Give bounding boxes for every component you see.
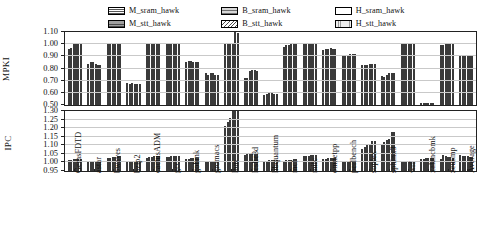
legend-swatch-icon xyxy=(108,20,125,28)
bar xyxy=(315,44,317,105)
legend-label: H_stt_hawk xyxy=(356,19,397,28)
bar xyxy=(119,44,121,105)
bar xyxy=(334,49,336,105)
x-axis-tick-label: xalancbmk xyxy=(428,136,437,173)
y-axis-tick-label: 0.90 xyxy=(18,51,58,60)
gridline xyxy=(65,68,476,69)
x-axis-tick: mcf xyxy=(280,172,300,228)
x-axis-tick: gcc xyxy=(162,172,182,228)
bar xyxy=(178,44,180,105)
bar xyxy=(276,94,278,105)
bar xyxy=(393,73,395,105)
x-axis-tick: milc xyxy=(300,172,320,228)
x-axis-tick-label: bzip2 xyxy=(133,154,142,173)
x-axis-tick: bwaves xyxy=(103,172,123,228)
x-axis-tick: perlbench xyxy=(339,172,359,228)
x-axis-tick: xalancbmk xyxy=(418,172,438,228)
x-axis-tick-label: mcf xyxy=(290,160,299,173)
x-axis-tick: libquantum xyxy=(261,172,281,228)
bar xyxy=(158,44,160,105)
bar xyxy=(295,44,297,105)
y-axis-tick-label: 1.00 xyxy=(18,39,58,48)
legend-swatch-icon xyxy=(108,7,125,15)
legend-swatch-icon xyxy=(335,20,352,28)
legend-label: M_sram_hawk xyxy=(129,6,179,15)
x-axis-tick: gromacs xyxy=(202,172,222,228)
chart-figure: M_sram_hawk B_sram_hawk H_sram_hawk M_st… xyxy=(0,0,481,228)
mpki-plot-panel xyxy=(64,31,477,106)
x-axis-tick: omnetpp xyxy=(320,172,340,228)
x-axis-tick: soplex xyxy=(359,172,379,228)
x-axis-tick-label: lbm xyxy=(231,160,240,173)
y-axis-title-mpki: MPKI xyxy=(1,57,11,81)
bar xyxy=(374,64,376,105)
y-axis-tick-label: 0.70 xyxy=(18,75,58,84)
x-axis-tick-label: omnetpp xyxy=(330,144,339,173)
bar xyxy=(139,84,141,105)
bar xyxy=(452,44,454,105)
bar xyxy=(197,62,199,105)
bar xyxy=(413,44,415,105)
legend-item-h-stt-hawk: H_stt_hawk xyxy=(335,19,448,28)
bar xyxy=(432,103,434,105)
gridline xyxy=(65,92,476,93)
chart-legend: M_sram_hawk B_sram_hawk H_sram_hawk M_st… xyxy=(108,4,448,30)
gridline xyxy=(65,31,476,32)
x-axis-tick-label: gobmk xyxy=(192,150,201,173)
bar xyxy=(80,44,82,105)
x-axis-tick-label: gcc xyxy=(172,161,181,173)
x-axis-tick-label: cactusADM xyxy=(153,133,162,173)
x-axis-tick: bzip2 xyxy=(123,172,143,228)
x-axis-tick-label: Average xyxy=(467,145,476,173)
x-axis-tick-label: leslie3d xyxy=(251,147,260,173)
legend-item-b-stt-hawk: B_stt_hawk xyxy=(221,19,334,28)
x-axis-tick-label: sphinx3 xyxy=(389,146,398,173)
legend-label: B_sram_hawk xyxy=(242,6,290,15)
x-axis-tick-label: wrf xyxy=(408,161,417,173)
x-axis-tick-label: milc xyxy=(310,158,319,173)
x-axis-labels: GemsFDTDastarbwavesbzip2cactusADMgccgobm… xyxy=(64,172,477,228)
y-axis-tick-label: 0.95 xyxy=(18,166,58,175)
legend-swatch-icon xyxy=(221,20,238,28)
x-axis-tick: cactusADM xyxy=(143,172,163,228)
x-axis-tick: lbm xyxy=(221,172,241,228)
y-axis-tick-label: 0.60 xyxy=(18,87,58,96)
gridline xyxy=(65,119,476,120)
y-axis-tick-label: 1.10 xyxy=(18,27,58,36)
x-axis-tick-label: bwaves xyxy=(113,148,122,173)
legend-label: B_stt_hawk xyxy=(242,19,282,28)
x-axis-tick: zeusmp xyxy=(438,172,458,228)
x-axis-tick: Average xyxy=(457,172,477,228)
legend-label: H_sram_hawk xyxy=(356,6,405,15)
legend-label: M_stt_hawk xyxy=(129,19,171,28)
x-axis-tick: sphinx3 xyxy=(379,172,399,228)
y-axis-title-ipc: IPC xyxy=(3,135,13,150)
legend-item-m-sram-hawk: M_sram_hawk xyxy=(108,6,221,15)
x-axis-tick-label: gromacs xyxy=(212,145,221,173)
y-axis-tick-label: 0.80 xyxy=(18,63,58,72)
x-axis-tick: astar xyxy=(84,172,104,228)
bar xyxy=(99,65,101,105)
legend-swatch-icon xyxy=(335,7,352,15)
gridline xyxy=(65,43,476,44)
x-axis-tick: leslie3d xyxy=(241,172,261,228)
x-axis-tick-label: astar xyxy=(94,157,103,173)
x-axis-tick: gobmk xyxy=(182,172,202,228)
gridline xyxy=(65,80,476,81)
legend-item-m-stt-hawk: M_stt_hawk xyxy=(108,19,221,28)
x-axis-tick-label: libquantum xyxy=(271,135,280,173)
x-axis-tick-label: zeusmp xyxy=(448,147,457,173)
legend-swatch-icon xyxy=(221,7,238,15)
x-axis-tick-label: soplex xyxy=(369,151,378,173)
legend-item-b-sram-hawk: B_sram_hawk xyxy=(221,6,334,15)
gridline xyxy=(65,127,476,128)
gridline xyxy=(65,110,476,111)
x-axis-tick-label: GemsFDTD xyxy=(74,132,83,173)
x-axis-tick: wrf xyxy=(398,172,418,228)
x-axis-tick-label: perlbench xyxy=(349,140,358,173)
x-axis-tick: GemsFDTD xyxy=(64,172,84,228)
legend-item-h-sram-hawk: H_sram_hawk xyxy=(335,6,448,15)
bar xyxy=(256,71,258,105)
gridline xyxy=(65,55,476,56)
